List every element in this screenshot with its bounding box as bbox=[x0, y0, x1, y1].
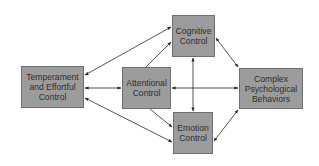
node-temperament-effortful-control: Temperament and Effortful Control bbox=[21, 66, 84, 108]
edge-emotion-complex bbox=[214, 110, 238, 141]
node-label: Cognitive Control bbox=[176, 26, 212, 46]
node-label: Attentional Control bbox=[126, 78, 167, 98]
edge-attentional-emotion bbox=[150, 109, 172, 127]
node-attentional-control: Attentional Control bbox=[122, 67, 171, 109]
node-emotion-control: Emotion Control bbox=[173, 112, 213, 154]
node-complex-psychological-behaviors: Complex Psychological Behaviors bbox=[239, 68, 303, 109]
node-label: Emotion Control bbox=[177, 123, 209, 143]
edge-cognitive-complex bbox=[216, 38, 238, 67]
node-label: Temperament and Effortful Control bbox=[26, 72, 79, 102]
edge-attentional-cognitive bbox=[146, 42, 171, 67]
node-label: Complex Psychological Behaviors bbox=[245, 74, 298, 104]
diagram-canvas: Temperament and Effortful Control Attent… bbox=[0, 0, 319, 166]
node-cognitive-control: Cognitive Control bbox=[172, 15, 215, 57]
